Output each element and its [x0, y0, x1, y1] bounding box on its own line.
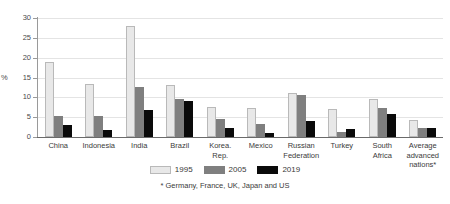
bar-group — [322, 18, 363, 137]
y-tick-label: 20 — [5, 54, 31, 62]
bar — [126, 26, 135, 137]
x-axis-line — [37, 137, 443, 138]
y-tick-mark — [33, 137, 37, 138]
bar — [175, 99, 184, 137]
bar-group — [200, 18, 241, 137]
bar — [166, 85, 175, 137]
bar-group — [281, 18, 322, 137]
y-tick-mark — [33, 18, 37, 19]
y-tick-mark — [33, 38, 37, 39]
bar — [337, 132, 346, 137]
bar — [63, 125, 72, 137]
bar — [216, 119, 225, 137]
y-tick-mark — [33, 97, 37, 98]
footnote: * Germany, France, UK, Japan and US — [0, 182, 450, 190]
bar-group — [38, 18, 79, 137]
bar-group — [160, 18, 201, 137]
bar — [103, 130, 112, 137]
bar-group — [241, 18, 282, 137]
bar — [288, 93, 297, 137]
legend-label: 2019 — [282, 166, 300, 174]
bar — [45, 62, 54, 137]
bar — [256, 124, 265, 137]
y-axis-title: % — [1, 74, 8, 82]
y-tick-mark — [33, 117, 37, 118]
bars-layer — [38, 18, 443, 137]
y-tick-mark — [33, 78, 37, 79]
legend-item[interactable]: 2019 — [257, 166, 300, 174]
y-tick-label: 5 — [5, 113, 31, 121]
bar — [184, 101, 193, 137]
bar — [346, 129, 355, 137]
legend-label: 2005 — [229, 166, 247, 174]
bar — [135, 87, 144, 137]
bar — [387, 114, 396, 137]
bar — [378, 108, 387, 137]
bar — [328, 109, 337, 137]
bar — [54, 116, 63, 137]
legend-swatch — [257, 166, 278, 174]
y-tick-label: 15 — [5, 74, 31, 82]
bar — [85, 84, 94, 137]
legend-swatch — [150, 166, 171, 174]
bar — [144, 110, 153, 137]
bar — [265, 133, 274, 137]
legend: 199520052019 — [0, 166, 450, 174]
legend-item[interactable]: 2005 — [204, 166, 247, 174]
bar-chart: 051015202530 % ChinaIndonesiaIndiaBrazil… — [0, 0, 450, 204]
bar — [427, 128, 436, 137]
bar-group — [119, 18, 160, 137]
bar — [94, 116, 103, 137]
y-tick-label: 25 — [5, 34, 31, 42]
y-tick-label: 10 — [5, 93, 31, 101]
bar — [225, 128, 234, 137]
bar — [297, 95, 306, 137]
bar — [207, 107, 216, 137]
bar — [418, 128, 427, 137]
bar-group — [403, 18, 444, 137]
bar-group — [79, 18, 120, 137]
bar — [306, 121, 315, 137]
legend-swatch — [204, 166, 225, 174]
y-tick-mark — [33, 58, 37, 59]
y-tick-label: 0 — [5, 133, 31, 141]
bar-group — [362, 18, 403, 137]
bar — [369, 99, 378, 137]
legend-label: 1995 — [175, 166, 193, 174]
legend-item[interactable]: 1995 — [150, 166, 193, 174]
bar — [409, 120, 418, 137]
y-tick-label: 30 — [5, 14, 31, 22]
bar — [247, 108, 256, 137]
